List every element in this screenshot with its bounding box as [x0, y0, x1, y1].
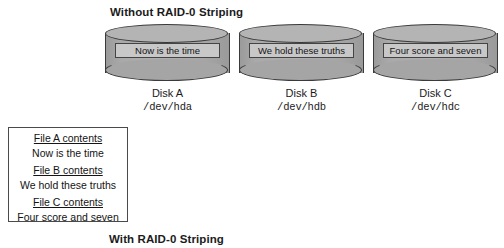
with-striping-title: With RAID-0 Striping [109, 233, 224, 245]
without-striping-title: Without RAID-0 Striping [110, 6, 243, 18]
legend-value-file-c: Four score and seven [9, 210, 127, 225]
raid0-striping-diagram: Without RAID-0 Striping Now is the time … [0, 0, 504, 248]
disk-chunk-label-a: Now is the time [115, 43, 220, 58]
cylinder-bottom-ellipse-b [239, 59, 362, 81]
disk-device-a: /dev/hda [104, 100, 231, 115]
legend-heading-file-b: File B contents [9, 163, 127, 178]
legend-heading-file-c: File C contents [9, 195, 127, 210]
cylinder-top-ellipse-b [239, 24, 362, 43]
legend-entry-file-c: File C contents Four score and seven [9, 195, 127, 225]
disk-cylinder-b: We hold these truths [238, 24, 365, 83]
legend-heading-file-a: File A contents [9, 131, 127, 146]
disk-caption-a: Disk A /dev/hda [104, 86, 231, 115]
file-contents-legend: File A contents Now is the time File B c… [8, 127, 128, 222]
disk-cylinder-c: Four score and seven [372, 24, 499, 83]
disk-device-c: /dev/hdc [372, 100, 499, 115]
disk-name-a: Disk A [104, 86, 231, 100]
cylinder-top-ellipse-c [373, 24, 496, 43]
disk-chunk-label-c: Four score and seven [383, 43, 488, 58]
disk-cylinder-a: Now is the time [104, 24, 231, 83]
legend-value-file-a: Now is the time [9, 146, 127, 161]
disk-group-b: We hold these truths Disk B /dev/hdb [238, 24, 366, 119]
disk-chunk-label-b: We hold these truths [249, 43, 354, 58]
disk-name-b: Disk B [238, 86, 365, 100]
disk-caption-b: Disk B /dev/hdb [238, 86, 365, 115]
disk-device-b: /dev/hdb [238, 100, 365, 115]
cylinder-top-ellipse-a [105, 24, 228, 43]
disk-group-c: Four score and seven Disk C /dev/hdc [372, 24, 500, 119]
disk-group-a: Now is the time Disk A /dev/hda [104, 24, 232, 119]
cylinder-bottom-ellipse-c [373, 59, 496, 81]
legend-entry-file-b: File B contents We hold these truths [9, 163, 127, 193]
cylinder-bottom-ellipse-a [105, 59, 228, 81]
disk-name-c: Disk C [372, 86, 499, 100]
disk-caption-c: Disk C /dev/hdc [372, 86, 499, 115]
legend-value-file-b: We hold these truths [9, 178, 127, 193]
legend-entry-file-a: File A contents Now is the time [9, 131, 127, 161]
